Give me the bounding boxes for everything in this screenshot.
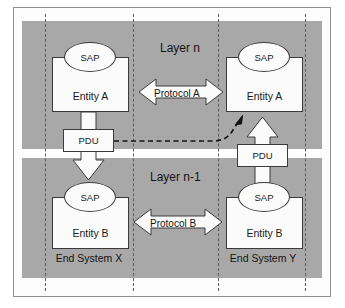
pdu-label-right: PDU: [252, 150, 272, 161]
boundary-line-1: [45, 14, 46, 291]
sap-label-upper-right: SAP: [254, 52, 273, 63]
end-system-y-caption: End System Y: [221, 252, 305, 264]
entity-label-lower-left: Entity B: [53, 227, 128, 239]
end-system-x-caption: End System X: [47, 252, 131, 264]
sap-label-upper-left: SAP: [80, 52, 99, 63]
layer-n-minus-1-caption: Layer n-1: [150, 170, 201, 184]
entity-label-lower-right: Entity B: [227, 227, 302, 239]
boundary-line-4: [305, 14, 306, 291]
pdu-box-right: PDU: [237, 144, 288, 167]
pdu-box-left: PDU: [63, 129, 114, 152]
sap-lower-right: SAP: [238, 182, 290, 212]
sap-label-lower-right: SAP: [254, 192, 273, 203]
sap-upper-left: SAP: [64, 42, 116, 72]
boundary-line-2: [133, 14, 134, 291]
protocol-a-label: Protocol A: [154, 88, 200, 99]
protocol-b-label: Protocol B: [150, 218, 196, 229]
sap-lower-left: SAP: [64, 182, 116, 212]
pdu-label-left: PDU: [78, 135, 98, 146]
protocol-architecture-figure: Entity A SAP Entity A SAP Entity B SAP E…: [0, 0, 345, 308]
entity-label-upper-left: Entity A: [53, 90, 128, 102]
sap-label-lower-left: SAP: [80, 192, 99, 203]
boundary-line-3: [218, 14, 219, 291]
sap-upper-right: SAP: [238, 42, 290, 72]
layer-n-caption: Layer n: [160, 41, 200, 55]
entity-label-upper-right: Entity A: [227, 90, 302, 102]
